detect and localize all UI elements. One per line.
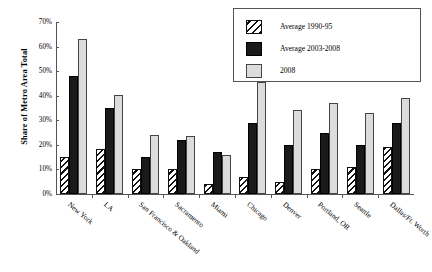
bar (114, 95, 123, 195)
bar (78, 39, 87, 194)
x-tick-label: Dallas/Ft. Worth (388, 200, 431, 238)
x-tick-label: Miami (209, 200, 230, 220)
bar (96, 149, 105, 194)
bar (311, 169, 320, 194)
bar (204, 184, 213, 194)
bar (186, 136, 195, 194)
y-tick-label: 60% (39, 43, 56, 51)
x-label-cell: New York (56, 198, 92, 272)
bar (105, 108, 114, 194)
bar (222, 155, 231, 194)
bar-group (163, 22, 199, 194)
bar (329, 103, 338, 194)
bar (356, 145, 365, 194)
y-tick-label: 0% (42, 190, 56, 198)
y-axis-title: Share of Metro Area Total (20, 12, 29, 182)
bar (213, 152, 222, 194)
x-label-cell: Denver (271, 198, 307, 272)
y-tick-label: 20% (39, 141, 56, 149)
legend-item: 2008 (246, 60, 420, 81)
bar-group (199, 22, 235, 194)
y-tick-label: 30% (39, 116, 56, 124)
bar-chart: Share of Metro Area Total 70%60%50%40%30… (0, 0, 432, 272)
x-label-cell: Sacramento (163, 198, 199, 272)
bar (248, 123, 257, 194)
bar (284, 145, 293, 194)
y-tick-label: 70% (39, 18, 56, 26)
bar-group (56, 22, 92, 194)
y-tick-label: 40% (39, 92, 56, 100)
bar (293, 110, 302, 194)
legend-label: Average 1990-95 (280, 22, 332, 31)
x-tick-label: Seattle (352, 200, 373, 220)
bar (257, 82, 266, 194)
bar (320, 133, 329, 194)
bar (401, 98, 410, 194)
bar (150, 135, 159, 194)
bar (383, 147, 392, 194)
bar (69, 76, 78, 194)
x-label-cell: Miami (199, 198, 235, 272)
y-tick-label: 50% (39, 67, 56, 75)
x-tick-label: Denver (281, 200, 303, 221)
y-tick-mark (56, 194, 59, 195)
bar (132, 169, 141, 194)
legend-swatch (246, 20, 262, 34)
bar (177, 140, 186, 194)
legend-label: 2008 (280, 66, 295, 75)
x-label-cell: Dallas/Ft. Worth (378, 198, 414, 272)
bar-group (128, 22, 164, 194)
bar (365, 113, 374, 194)
legend-item: Average 1990-95 (246, 16, 420, 37)
legend-label: Average 2003-2008 (280, 44, 340, 53)
bar (168, 169, 177, 194)
chart-legend: Average 1990-95Average 2003-20082008 (233, 8, 421, 82)
x-label-cell: LA (92, 198, 128, 272)
bar (347, 167, 356, 194)
x-axis-labels: New YorkLASan Francisco & OaklandSacrame… (56, 198, 414, 272)
x-tick-label: LA (102, 200, 115, 213)
x-tick-label: Chicago (245, 200, 270, 223)
legend-swatch (246, 42, 262, 56)
bar (60, 157, 69, 194)
x-label-cell: San Francisco & Oakland (128, 198, 164, 272)
bar (392, 123, 401, 194)
x-tick-label: New York (66, 200, 95, 226)
bar (275, 182, 284, 194)
x-label-cell: Seattle (342, 198, 378, 272)
x-label-cell: Portland, OR (307, 198, 343, 272)
bar-group (92, 22, 128, 194)
bar (141, 157, 150, 194)
x-label-cell: Chicago (235, 198, 271, 272)
legend-swatch (246, 64, 262, 78)
bar (239, 177, 248, 194)
y-tick-label: 10% (39, 165, 56, 173)
legend-item: Average 2003-2008 (246, 38, 420, 59)
